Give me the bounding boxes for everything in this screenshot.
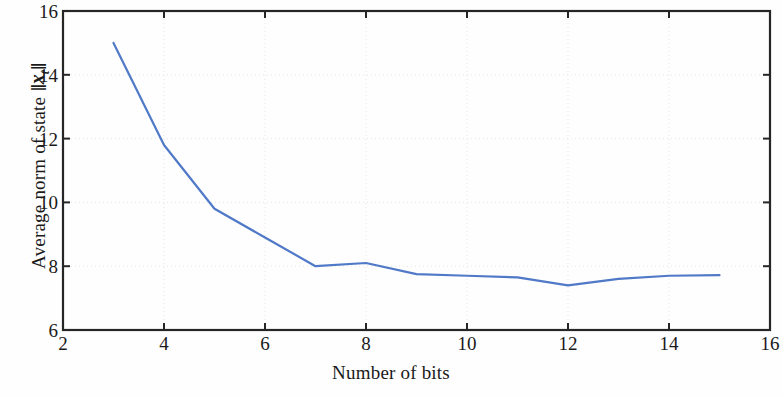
- axis-ticks: [63, 11, 770, 330]
- plot-area: [0, 0, 782, 397]
- chart-figure: Average norm of state ‖ xt ‖ 6810121416 …: [0, 0, 782, 397]
- data-series-line: [114, 43, 720, 285]
- plot-frame: [63, 11, 770, 330]
- gridlines: [63, 11, 770, 330]
